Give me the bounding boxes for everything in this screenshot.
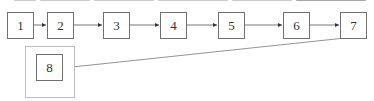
node-6: 6 <box>283 12 310 39</box>
node-label: 2 <box>57 18 64 34</box>
node-label: 1 <box>17 18 24 34</box>
node-3: 3 <box>103 12 130 39</box>
node-label: 8 <box>46 60 53 76</box>
node-1: 1 <box>7 12 34 39</box>
node-7: 7 <box>340 12 367 39</box>
node-label: 6 <box>293 18 300 34</box>
node-label: 4 <box>170 18 177 34</box>
node-2: 2 <box>47 12 74 39</box>
edge-7-8 <box>63 38 345 68</box>
node-label: 3 <box>113 18 120 34</box>
node-label: 5 <box>228 18 235 34</box>
node-5: 5 <box>218 12 245 39</box>
node-8: 8 <box>36 54 63 81</box>
node-4: 4 <box>160 12 187 39</box>
node-label: 7 <box>350 18 357 34</box>
